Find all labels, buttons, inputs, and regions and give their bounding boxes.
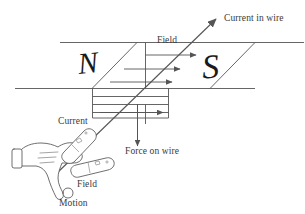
wire-cross-section-box: [93, 89, 169, 119]
motion-hand-label: Motion: [59, 199, 88, 209]
field-arrows: [100, 55, 196, 113]
current-hand-label: Current: [58, 117, 88, 127]
field-top-label: Field: [157, 36, 177, 46]
field-hand-label: Field: [77, 180, 97, 190]
diagram-svg: [0, 0, 305, 214]
south-pole-label: S: [201, 49, 220, 84]
force-on-wire-label: Force on wire: [125, 147, 179, 157]
figure-canvas: N S Current in wire Field Force on wire …: [0, 0, 305, 214]
north-pole-label: N: [76, 47, 99, 79]
current-in-wire-label: Current in wire: [224, 14, 284, 24]
